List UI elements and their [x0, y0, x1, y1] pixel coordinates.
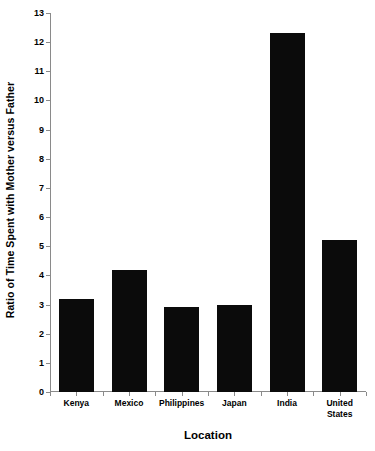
y-axis-tick-label: 11 [22, 67, 44, 76]
x-axis-tick [129, 392, 130, 396]
y-axis-tick-label: 8 [22, 154, 44, 163]
y-axis-tick-label: 5 [22, 242, 44, 251]
y-axis-tick-labels: 012345678910111213 [22, 0, 44, 451]
y-axis-tick-label: 9 [22, 125, 44, 134]
y-axis-tick-label: 12 [22, 38, 44, 47]
x-axis-tick [340, 392, 341, 396]
bar [59, 299, 94, 392]
bar [164, 307, 199, 392]
bar [322, 240, 357, 392]
x-axis-tick [287, 392, 288, 396]
plot-area [50, 13, 366, 392]
bar-chart: Ratio of Time Spent with Mother versus F… [0, 0, 375, 451]
x-axis-tick [208, 392, 209, 396]
x-axis-tick [234, 392, 235, 396]
y-axis-tick-label: 1 [22, 358, 44, 367]
bar [112, 270, 147, 392]
y-axis-title-text: Ratio of Time Spent with Mother versus F… [4, 82, 16, 319]
y-axis-tick-label: 10 [22, 96, 44, 105]
y-axis-tick-label: 6 [22, 213, 44, 222]
x-axis-tick [50, 392, 51, 396]
x-axis-tick [103, 392, 104, 396]
y-axis-tick-label: 13 [22, 9, 44, 18]
x-axis-tick [182, 392, 183, 396]
x-axis-tick [261, 392, 262, 396]
bar-series [50, 13, 366, 392]
x-axis-tick [155, 392, 156, 396]
y-axis-tick-label: 7 [22, 183, 44, 192]
x-axis-tick [313, 392, 314, 396]
x-axis-tick [366, 392, 367, 396]
x-axis-tick-labels: KenyaMexicoPhilippinesJapanIndiaUnitedSt… [50, 398, 366, 430]
y-axis-tick-label: 4 [22, 271, 44, 280]
x-axis-title: Location [50, 429, 366, 441]
y-axis-tick-label: 3 [22, 300, 44, 309]
y-axis-tick-label: 0 [22, 388, 44, 397]
bar [270, 33, 305, 392]
x-axis-tick-label: UnitedStates [305, 398, 375, 420]
y-axis-tick-label: 2 [22, 329, 44, 338]
y-axis-title: Ratio of Time Spent with Mother versus F… [0, 0, 20, 400]
x-axis-tick [76, 392, 77, 396]
bar [217, 305, 252, 392]
